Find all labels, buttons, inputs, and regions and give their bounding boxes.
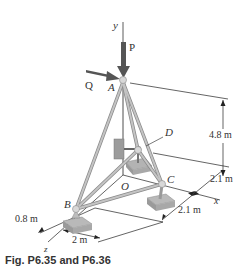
figure-caption: Fig. P6.35 and P6.36	[5, 254, 111, 266]
dim-line-mid	[153, 153, 229, 167]
force-q-label: Q	[85, 79, 93, 91]
dim-b-width-label: 2 m	[72, 234, 88, 245]
joint-d	[135, 147, 142, 154]
dim-line-top	[130, 83, 228, 99]
dim-2m-ref	[98, 222, 163, 242]
x-axis-label: x	[213, 195, 219, 206]
d-leader	[146, 137, 163, 146]
point-b-label: B	[64, 198, 71, 210]
dim-x-upper-label: 2.1 m	[210, 173, 233, 184]
force-p-label: P	[129, 41, 135, 53]
dim-x-lower-label: 2.1 m	[178, 204, 201, 215]
z-axis-label: z	[43, 244, 48, 254]
dim-z-offset-label: 0.8 m	[15, 213, 38, 224]
joint-b	[73, 206, 80, 213]
point-a-label: A	[107, 81, 115, 93]
point-o-label: O	[121, 180, 129, 192]
joint-a	[120, 77, 127, 84]
point-d-label: D	[164, 126, 173, 138]
y-axis-label: y	[112, 19, 118, 31]
dim-line-b	[95, 208, 163, 222]
truss-diagram: y P Q A D O C B x z 4.8 m 2.1 m 2.1 m 0.…	[0, 0, 246, 271]
joint-c	[159, 181, 166, 188]
point-c-label: C	[167, 173, 175, 185]
truss-figure: y P Q A D O C B x z 4.8 m 2.1 m 2.1 m 0.…	[0, 0, 246, 271]
dim-height-label: 4.8 m	[209, 129, 232, 140]
